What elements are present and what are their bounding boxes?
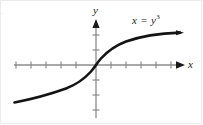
plot-area (0, 0, 203, 125)
curve-x-equals-y-cubed (15, 33, 181, 103)
curve-equation-label: x = y3 (132, 14, 160, 26)
figure-canvas: . (0, 0, 203, 125)
y-axis-label: y (93, 5, 98, 16)
x-axis-arrowhead (176, 61, 185, 68)
curve-equation-exponent: 3 (156, 13, 160, 21)
x-axis-label: x (188, 59, 193, 70)
y-axis-arrowhead (92, 19, 99, 28)
curve-end-arrowhead (176, 30, 184, 35)
curve-equation-text: x = y (132, 14, 156, 26)
